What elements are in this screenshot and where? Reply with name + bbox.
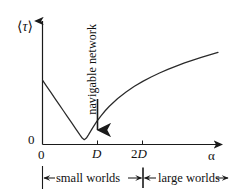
y-axis-label-bracket-close: ⟩ xyxy=(27,19,32,34)
x-tick-label-0: 0 xyxy=(38,148,45,161)
figure-container: ⟨τ⟩ 0 0 D 2D α navigable network small w… xyxy=(0,0,240,194)
plot-area xyxy=(0,0,240,194)
x-tick-label-2d-symbol: D xyxy=(138,146,147,161)
navigable-network-annotation: navigable network xyxy=(86,24,98,115)
large-worlds-region-label: large worlds xyxy=(158,172,220,185)
y-axis-zero-tick-label: 0 xyxy=(28,133,35,146)
y-axis-label: ⟨τ⟩ xyxy=(17,20,33,34)
small-worlds-region-label: small worlds xyxy=(56,172,120,185)
data-curve xyxy=(43,52,219,139)
x-axis-label: α xyxy=(208,149,215,162)
x-tick-label-d: D xyxy=(92,147,101,160)
x-tick-label-2d: 2D xyxy=(131,147,147,160)
